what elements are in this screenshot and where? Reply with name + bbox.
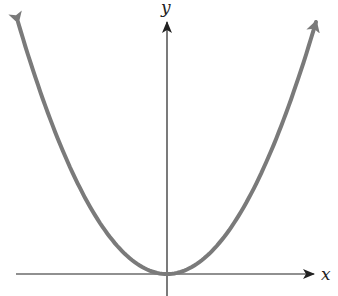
- x-axis-label: x: [321, 264, 331, 284]
- y-axis-label: y: [160, 0, 171, 17]
- parabola-graph: y x: [0, 0, 338, 296]
